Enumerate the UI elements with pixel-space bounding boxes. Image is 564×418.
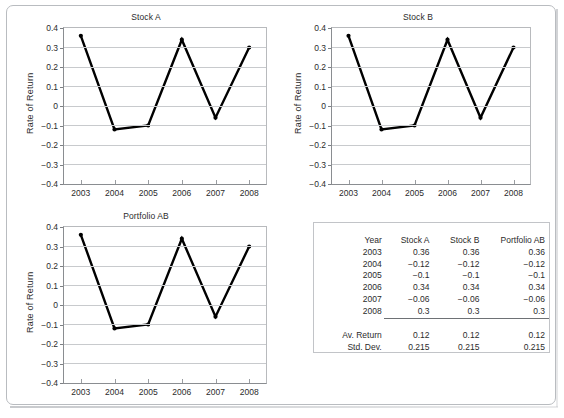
y-axis-tick-mark: [60, 364, 63, 365]
data-point-marker: [478, 116, 482, 120]
x-axis-tick-mark: [81, 379, 82, 383]
table-cell-portfolio-ab: −0.12: [483, 259, 549, 271]
x-axis-tick-label: 2008: [240, 188, 259, 198]
y-axis-tick-mark: [60, 87, 63, 88]
x-axis-tick-label: 2005: [405, 188, 424, 198]
table-row: 2004 −0.12 −0.12 −0.12: [332, 259, 549, 271]
series-line-stock-b: [332, 28, 532, 186]
y-axis-tick-label: −0.2: [41, 140, 58, 150]
table-spacer-row: [332, 318, 549, 330]
table-summary-row: Av. Return 0.12 0.12 0.12: [332, 330, 549, 342]
chart-title-stock-b: Stock B: [281, 12, 555, 22]
table-header-portfolio-ab: Portfolio AB: [483, 235, 549, 247]
x-axis-tick-label: 2006: [172, 188, 191, 198]
data-point-marker: [112, 326, 116, 330]
data-point-marker: [112, 127, 116, 131]
y-axis-tick-label: −0.4: [309, 179, 326, 189]
chart-title-portfolio-ab: Portfolio AB: [7, 211, 285, 221]
table-cell-stock-b: −0.06: [433, 294, 483, 306]
y-axis-label-stock-a: Rate of Return: [25, 73, 35, 134]
x-axis-tick-label: 2008: [504, 188, 523, 198]
table-cell-year: 2004: [332, 259, 384, 271]
y-axis-tick-label: 0.1: [314, 82, 326, 92]
x-axis-tick-mark: [448, 180, 449, 184]
x-axis-tick-mark: [514, 180, 515, 184]
table-row: 2006 0.34 0.34 0.34: [332, 282, 549, 294]
y-axis-tick-mark: [60, 145, 63, 146]
table-cell-portfolio-ab: 0.36: [483, 247, 549, 259]
x-axis-tick-mark: [382, 180, 383, 184]
x-axis-tick-mark: [216, 379, 217, 383]
table-cell-stock-a: 0.36: [384, 247, 434, 259]
data-series-line: [81, 235, 249, 329]
x-axis-tick-label: 2007: [206, 188, 225, 198]
y-axis-tick-mark: [60, 266, 63, 267]
y-axis-tick-label: 0.3: [46, 43, 58, 53]
y-axis-tick-mark: [328, 87, 331, 88]
y-axis-tick-mark: [60, 227, 63, 228]
gridline: [64, 344, 266, 345]
y-axis-tick-mark: [60, 305, 63, 306]
y-axis-tick-label: 0.1: [46, 281, 58, 291]
table-row: 2008 0.3 0.3 0.3: [332, 306, 549, 318]
x-axis-tick-mark: [415, 180, 416, 184]
table-cell-stock-b: 0.3: [433, 306, 483, 318]
y-axis-tick-mark: [328, 106, 331, 107]
x-axis-tick-label: 2006: [438, 188, 457, 198]
table-cell-portfolio-ab: 0.3: [483, 306, 549, 318]
data-point-marker: [180, 38, 184, 42]
table-cell-av-return-stock-b: 0.12: [433, 330, 483, 342]
y-axis-tick-label: −0.4: [41, 179, 58, 189]
x-axis-tick-mark: [115, 379, 116, 383]
x-axis-tick-mark: [182, 180, 183, 184]
y-axis-tick-label: −0.3: [41, 359, 58, 369]
gridline: [64, 125, 266, 126]
table-cell-year: 2007: [332, 294, 384, 306]
table-row: 2007 −0.06 −0.06 −0.06: [332, 294, 549, 306]
y-axis-label-stock-b: Rate of Return: [293, 73, 303, 134]
x-axis-tick-mark: [182, 379, 183, 383]
gridline: [332, 125, 530, 126]
y-axis-tick-label: 0.4: [46, 222, 58, 232]
x-axis-tick-mark: [148, 379, 149, 383]
x-axis-tick-label: 2004: [372, 188, 391, 198]
y-axis-tick-mark: [60, 286, 63, 287]
y-axis-tick-label: 0.2: [46, 62, 58, 72]
page-shadow-bottom: [10, 406, 558, 408]
y-axis-tick-mark: [328, 48, 331, 49]
y-axis-tick-label: −0.1: [41, 320, 58, 330]
page-shadow-right: [556, 9, 558, 407]
data-point-marker: [445, 38, 449, 42]
table-cell-av-return-label: Av. Return: [332, 330, 384, 342]
y-axis-tick-mark: [328, 165, 331, 166]
x-axis-tick-label: 2007: [206, 387, 225, 397]
gridline: [64, 47, 266, 48]
y-axis-tick-mark: [60, 247, 63, 248]
table-cell-av-return-stock-a: 0.12: [384, 330, 434, 342]
y-axis-tick-label: 0.3: [46, 242, 58, 252]
gridline: [332, 67, 530, 68]
gridline: [64, 285, 266, 286]
y-axis-tick-mark: [60, 67, 63, 68]
y-axis-tick-mark: [60, 28, 63, 29]
x-axis-tick-mark: [216, 180, 217, 184]
table-cell-std-dev-stock-a: 0.215: [384, 342, 434, 354]
x-axis-tick-mark: [249, 180, 250, 184]
table-cell-year: 2005: [332, 270, 384, 282]
y-axis-tick-mark: [60, 325, 63, 326]
y-axis-tick-label: 0.4: [314, 23, 326, 33]
chart-panel-stock-b: Stock B Rate of Return 0.40.30.20.10−0.1…: [281, 6, 555, 203]
plot-area-stock-a: [63, 27, 267, 185]
y-axis-tick-label: −0.2: [41, 339, 58, 349]
y-axis-tick-mark: [328, 28, 331, 29]
y-axis-tick-mark: [328, 145, 331, 146]
gridline: [332, 106, 530, 107]
x-axis-tick-mark: [349, 180, 350, 184]
gridline: [64, 246, 266, 247]
gridline: [64, 164, 266, 165]
data-point-marker: [213, 315, 217, 319]
table-cell-std-dev-stock-b: 0.215: [433, 342, 483, 354]
y-axis-tick-mark: [328, 67, 331, 68]
data-point-marker: [79, 34, 83, 38]
y-axis-tick-mark: [60, 48, 63, 49]
